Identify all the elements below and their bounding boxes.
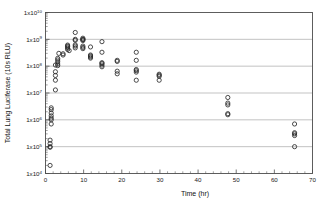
y-axis-title: Total Lung Luciferase (10s RLU) — [4, 43, 12, 143]
x-tick-label: 70 — [309, 176, 316, 183]
x-tick-label: 20 — [118, 176, 125, 183]
x-tick-label: 10 — [80, 176, 87, 183]
x-axis-title: Time (hr) — [181, 190, 209, 198]
x-tick-label: 60 — [271, 176, 278, 183]
x-tick-label: 30 — [156, 176, 163, 183]
x-tick-label: 50 — [233, 176, 240, 183]
x-tick-label: 40 — [195, 176, 202, 183]
figure-container: 1x1041x1051x1061x1071x1081x1091x1010 010… — [0, 0, 326, 203]
figure-background — [0, 0, 326, 203]
scatter-plot: 1x1041x1051x1061x1071x1081x1091x1010 010… — [0, 0, 326, 203]
x-tick-label: 0 — [44, 176, 48, 183]
